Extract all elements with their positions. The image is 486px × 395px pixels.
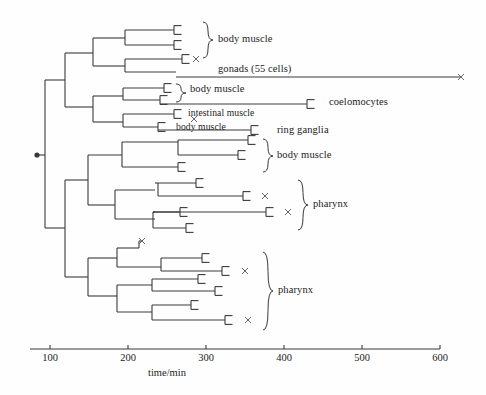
fork-ring-ganglia bbox=[251, 126, 259, 135]
label-pharynx-1: pharynx bbox=[313, 198, 348, 209]
label-pharynx-2: pharynx bbox=[278, 284, 313, 295]
fork-ph2-e bbox=[191, 301, 199, 310]
fork-ph2-d bbox=[215, 287, 223, 296]
brace-pharynx-2 bbox=[263, 252, 273, 330]
fork-bm4-c bbox=[178, 163, 186, 172]
lineage-figure: body musclegonads (55 cells)body musclec… bbox=[0, 0, 486, 395]
cross-gonad-sib bbox=[193, 56, 199, 62]
fork-bm4-a bbox=[248, 136, 256, 145]
fork-gonad-sib bbox=[182, 55, 190, 64]
axis-tick-label-100: 100 bbox=[42, 352, 58, 363]
fork-coelomocytes bbox=[307, 100, 315, 109]
label-body-muscle-4: body muscle bbox=[277, 149, 331, 160]
axis-tick-label-200: 200 bbox=[120, 352, 136, 363]
axis-title: time/min bbox=[148, 367, 186, 378]
label-intestinal-muscle: intestinal muscle bbox=[188, 107, 254, 118]
fork-ph2-c bbox=[198, 275, 206, 284]
fork-ph1-e bbox=[186, 224, 194, 233]
axis-tick-label-600: 600 bbox=[432, 352, 448, 363]
cross-ph2-f bbox=[245, 317, 251, 323]
label-body-muscle-2: body muscle bbox=[190, 83, 244, 94]
fork-ph1-d bbox=[266, 208, 274, 217]
axis-tick-label-300: 300 bbox=[198, 352, 214, 363]
brace-body-muscle-1 bbox=[203, 22, 213, 58]
fork-ph2-a bbox=[202, 254, 210, 263]
cross-ph2-b bbox=[242, 268, 248, 274]
brace-pharynx-1 bbox=[298, 180, 308, 230]
label-gonads: gonads (55 cells) bbox=[218, 63, 291, 74]
label-ring-ganglia: ring ganglia bbox=[277, 124, 329, 135]
axis-tick-label-500: 500 bbox=[354, 352, 370, 363]
label-body-muscle-1: body muscle bbox=[218, 33, 272, 44]
cross-ph1-d bbox=[285, 209, 291, 215]
fork-ph2-b bbox=[222, 267, 230, 276]
fork-body-muscle-2b bbox=[160, 96, 168, 105]
root-node bbox=[34, 152, 45, 157]
fork-ph1-b bbox=[243, 192, 251, 201]
root-dot bbox=[34, 152, 39, 157]
axis-tick-label-400: 400 bbox=[276, 352, 292, 363]
fork-body-muscle-1b bbox=[174, 41, 182, 50]
fork-body-muscle-2a bbox=[164, 84, 172, 93]
time-axis bbox=[30, 345, 440, 349]
fork-ph2-f bbox=[225, 316, 233, 325]
fork-bm4-b bbox=[238, 151, 246, 160]
brace-body-muscle-2 bbox=[176, 84, 186, 102]
death-markers bbox=[139, 56, 464, 323]
label-coelomocytes: coelomocytes bbox=[329, 96, 388, 107]
lineage-tree-canvas bbox=[0, 0, 486, 395]
fork-ph1-a bbox=[196, 179, 204, 188]
label-body-muscle-3: body muscle bbox=[176, 121, 226, 132]
brace-body-muscle-4 bbox=[263, 139, 273, 172]
fork-body-muscle-1a bbox=[174, 26, 182, 35]
cross-ph1-b bbox=[262, 193, 268, 199]
fork-intestinal bbox=[174, 110, 182, 119]
